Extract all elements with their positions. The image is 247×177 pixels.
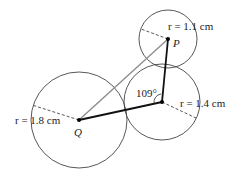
point-label-p: P bbox=[172, 37, 180, 49]
segment-q-m bbox=[79, 102, 162, 120]
tangent-circles-diagram: r = 1.1 cm P 109° r = 1.4 cm r = 1.8 cm … bbox=[0, 0, 247, 177]
point-m bbox=[160, 100, 164, 104]
radius-label-q: r = 1.8 cm bbox=[15, 114, 61, 126]
radius-p-dashed bbox=[141, 29, 168, 39]
radius-label-p: r = 1.1 cm bbox=[168, 20, 214, 32]
segment-m-p bbox=[162, 39, 168, 102]
point-q bbox=[77, 118, 81, 122]
segment-q-p bbox=[79, 39, 168, 120]
radius-label-middle: r = 1.4 cm bbox=[180, 97, 226, 109]
point-label-q: Q bbox=[74, 126, 82, 138]
point-p bbox=[166, 37, 170, 41]
angle-label: 109° bbox=[136, 87, 157, 99]
